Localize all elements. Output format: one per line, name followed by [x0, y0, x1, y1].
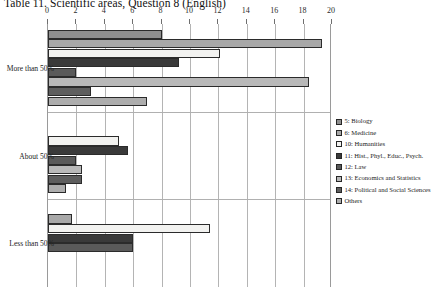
x-axis-tick: [331, 19, 332, 24]
bar: [48, 39, 322, 48]
bar: [48, 49, 220, 58]
biology-swatch: [336, 119, 342, 125]
polit-swatch: [336, 187, 342, 193]
bar: [48, 243, 133, 252]
legend-item: Others: [336, 196, 434, 207]
bar: [48, 97, 147, 106]
gridline: [275, 24, 276, 287]
bar: [48, 146, 128, 155]
x-axis-tick-label: 16: [270, 6, 278, 15]
gridline: [218, 24, 219, 287]
x-axis-tick-label: 8: [159, 6, 163, 15]
x-axis-tick-label: 0: [45, 6, 49, 15]
category-label: About 50%: [19, 152, 54, 161]
bar: [48, 184, 66, 193]
legend-item: 11: Hist., Phyl., Educ., Psych.: [336, 150, 434, 161]
legend-item: 14: Political and Social Sciences: [336, 184, 434, 195]
bar: [48, 87, 91, 96]
x-axis-tick-label: 2: [73, 6, 77, 15]
bar: [48, 234, 133, 243]
x-axis-tick-label: 18: [299, 6, 307, 15]
legend-item: 5: Biology: [336, 116, 434, 127]
legend-item-label: 13: Economics and Statistics: [345, 175, 421, 182]
bar: [48, 165, 82, 174]
legend-item: 10: Humanities: [336, 139, 434, 150]
legend-item: 6: Medicine: [336, 127, 434, 138]
x-axis-tick-label: 20: [327, 6, 335, 15]
group-separator: [48, 112, 330, 113]
chart-legend: 5: Biology6: Medicine10: Humanities11: H…: [336, 116, 434, 207]
bar: [48, 175, 82, 184]
bar: [48, 214, 72, 223]
legend-item-label: 11: Hist., Phyl., Educ., Psych.: [345, 153, 424, 160]
x-axis-tick-label: 12: [213, 6, 221, 15]
bar: [48, 77, 309, 86]
legend-item-label: 14: Political and Social Sciences: [345, 187, 431, 194]
bar: [48, 30, 162, 39]
x-axis-tick-label: 4: [102, 6, 106, 15]
x-axis-tick-label: 14: [242, 6, 250, 15]
gridline: [190, 24, 191, 287]
bar: [48, 136, 119, 145]
econ-swatch: [336, 176, 342, 182]
law-swatch: [336, 164, 342, 170]
bar: [48, 58, 179, 67]
legend-item-label: 6: Medicine: [345, 130, 377, 137]
legend-item-label: 5: Biology: [345, 118, 373, 125]
plot-area: [47, 24, 331, 287]
legend-item-label: 10: Humanities: [345, 141, 385, 148]
group-separator: [48, 199, 330, 200]
gridline: [304, 24, 305, 287]
legend-item-label: 12: Law: [345, 164, 367, 171]
legend-item: 13: Economics and Statistics: [336, 173, 434, 184]
bar: [48, 224, 210, 233]
legend-item-label: Others: [345, 198, 363, 205]
humanities-swatch: [336, 141, 342, 147]
category-label: Less than 50%: [9, 239, 54, 248]
legend-item: 12: Law: [336, 162, 434, 173]
medicine-swatch: [336, 130, 342, 136]
category-label: More than 50%: [7, 64, 54, 73]
x-axis-tick-label: 6: [130, 6, 134, 15]
hist-swatch: [336, 153, 342, 159]
gridline: [247, 24, 248, 287]
x-axis-tick-label: 10: [185, 6, 193, 15]
others-swatch: [336, 198, 342, 204]
